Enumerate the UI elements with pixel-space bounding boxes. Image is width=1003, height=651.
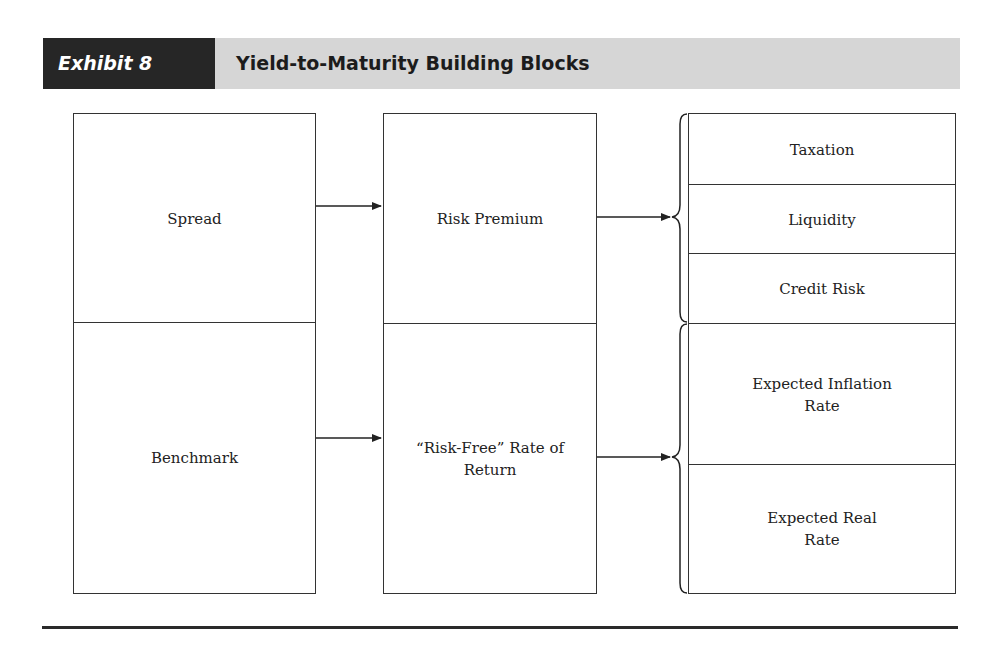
connectors-layer	[0, 0, 1003, 651]
brace-risk-free-icon	[672, 324, 687, 593]
brace-risk-premium-icon	[672, 114, 687, 322]
bottom-rule-divider	[42, 626, 958, 629]
